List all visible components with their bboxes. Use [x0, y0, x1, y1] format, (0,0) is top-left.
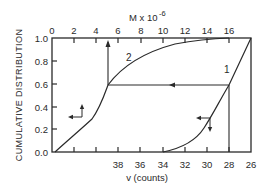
svg-text:34: 34 [158, 159, 169, 170]
plot-frame [52, 38, 251, 152]
series-1-label: 1 [224, 64, 230, 75]
svg-text:4: 4 [93, 25, 98, 36]
series-2-label: 2 [126, 52, 132, 63]
svg-text:M x 10: M x 10 [129, 12, 158, 23]
series-2-curve [55, 38, 229, 152]
bottom-tick-labels: 38 36 34 32 30 28 26 [113, 159, 257, 170]
svg-text:10: 10 [158, 25, 169, 36]
left-arrow-icon [68, 115, 73, 119]
svg-text:14: 14 [202, 25, 213, 36]
svg-text:0: 0 [49, 25, 54, 36]
svg-text:30: 30 [202, 159, 213, 170]
svg-text:12: 12 [180, 25, 191, 36]
svg-text:0.0: 0.0 [35, 147, 48, 158]
up-arrowhead-icon [106, 40, 111, 47]
svg-text:-6: -6 [159, 9, 166, 18]
svg-text:6: 6 [115, 25, 120, 36]
series-1-curve [163, 38, 251, 152]
svg-text:0.4: 0.4 [35, 102, 48, 113]
svg-text:26: 26 [246, 159, 257, 170]
bottom-axis-title: v (counts) [126, 172, 168, 183]
y-axis-ticks [52, 61, 57, 129]
left-arrowhead-icon [169, 83, 175, 88]
svg-text:2: 2 [71, 25, 76, 36]
svg-text:28: 28 [224, 159, 235, 170]
y-axis-title: CUMULATIVE DISTRIBUTION [14, 29, 24, 162]
svg-text:0.6: 0.6 [35, 79, 48, 90]
down-arrow-icon [208, 127, 212, 132]
svg-text:36: 36 [135, 159, 146, 170]
top-tick-labels: 0 2 4 6 8 10 12 14 16 [49, 25, 234, 36]
bottom-axis-ticks [74, 147, 229, 152]
left-arrow-icon [196, 116, 201, 120]
svg-text:1.0: 1.0 [35, 33, 48, 44]
svg-text:38: 38 [113, 159, 124, 170]
svg-text:32: 32 [180, 159, 191, 170]
svg-text:0.2: 0.2 [35, 124, 48, 135]
top-axis-title: M x 10 -6 [129, 9, 166, 23]
svg-text:16: 16 [224, 25, 235, 36]
y-tick-labels: 1.0 0.8 0.6 0.4 0.2 0.0 [35, 33, 48, 158]
chart: 1.0 0.8 0.6 0.4 0.2 0.0 0 2 4 6 8 10 12 … [0, 0, 269, 191]
up-arrow-icon [80, 104, 84, 109]
top-axis-ticks [74, 38, 229, 43]
svg-text:8: 8 [138, 25, 143, 36]
svg-text:0.8: 0.8 [35, 56, 48, 67]
